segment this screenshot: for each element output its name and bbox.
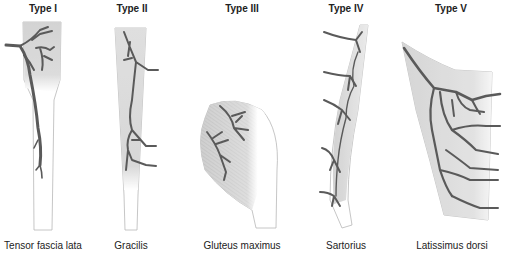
title-type-5: Type V	[435, 3, 467, 14]
gluteus-maximus-illustration	[201, 101, 278, 228]
title-type-4: Type IV	[329, 3, 364, 14]
muscle-vascular-diagram	[0, 0, 509, 259]
label-gluteus-maximus: Gluteus maximus	[203, 240, 280, 251]
label-tensor-fascia-lata: Tensor fascia lata	[4, 240, 82, 251]
title-type-1: Type I	[29, 3, 57, 14]
latissimus-dorsi-illustration	[402, 42, 500, 220]
label-latissimus-dorsi: Latissimus dorsi	[416, 240, 488, 251]
sartorius-illustration	[320, 25, 368, 228]
label-gracilis: Gracilis	[114, 240, 147, 251]
gracilis-illustration	[115, 28, 158, 230]
tensor-fascia-lata-illustration	[6, 22, 61, 230]
title-type-3: Type III	[225, 3, 259, 14]
title-type-2: Type II	[117, 3, 148, 14]
label-sartorius: Sartorius	[326, 240, 366, 251]
